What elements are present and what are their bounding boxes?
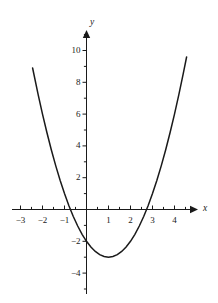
x-tick-label: 4 [163,216,187,225]
parabola-curve [33,57,187,257]
y-tick-label: 4 [57,141,81,150]
y-axis-ticks [83,35,87,289]
x-tick-label: −1 [53,216,77,225]
y-tick-label: −4 [57,269,81,278]
y-tick-label: −2 [57,237,81,246]
x-tick-label: −2 [31,216,55,225]
x-tick-label: 2 [119,216,143,225]
y-axis-label: y [90,18,94,28]
x-axis-ticks [21,206,186,210]
y-tick-label: 8 [57,78,81,87]
parabola-figure: −3−2−11234246810−2−4 x y [0,0,218,303]
x-axis [12,206,198,213]
x-tick-label: −3 [9,216,33,225]
x-tick-label: 1 [97,216,121,225]
y-tick-label: 10 [57,46,81,55]
y-tick-label: 6 [57,110,81,119]
x-axis-label: x [203,204,207,214]
plot-canvas [0,0,218,303]
y-tick-label: 2 [57,173,81,182]
x-tick-label: 3 [141,216,165,225]
